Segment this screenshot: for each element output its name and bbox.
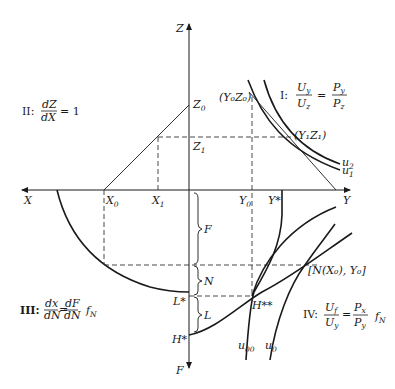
svg-text:Px: Px <box>353 301 366 315</box>
svg-text:Uz: Uz <box>297 97 310 111</box>
y0z0-label: (Y₀Z₀) <box>219 91 251 104</box>
h-star-star-label: H** <box>251 299 273 312</box>
quadrant-ii-equation: II: dZ dX = 1 <box>22 98 80 124</box>
x1-label: X1 <box>151 194 165 209</box>
production-curve-iii <box>57 190 189 292</box>
quadrant-i-equation: I: Uy Uz = Py Pz <box>280 81 347 111</box>
z0-label: Z0 <box>192 98 206 113</box>
svg-text:fN: fN <box>374 310 386 325</box>
svg-text:fN: fN <box>85 304 97 319</box>
svg-text:Uf: Uf <box>325 301 338 315</box>
svg-text:=: = <box>317 89 326 102</box>
brace-f <box>194 193 202 264</box>
svg-text:Uy: Uy <box>325 316 339 330</box>
quadrant-iv-equation: IV: Uf Uy = Px Py fN <box>303 301 386 330</box>
z1-label: Z1 <box>192 140 205 155</box>
y0-label: Y0 <box>239 194 251 209</box>
y1z1-label: (Y₁Z₁) <box>294 129 326 142</box>
svg-text:I:: I: <box>280 89 288 102</box>
l-star-label: L* <box>172 295 186 308</box>
u0-label: u0 <box>265 339 277 354</box>
brace-n-label: N <box>203 275 214 288</box>
svg-text:IV:: IV: <box>303 308 318 321</box>
svg-text:dN: dN <box>64 309 81 322</box>
n-x0-y0-label: [N(X₀), Y₀] <box>308 264 366 277</box>
transformation-line <box>104 105 189 190</box>
indifference-curve-u0 <box>270 224 335 360</box>
svg-text:Py: Py <box>332 81 345 95</box>
h-star-label: H* <box>171 333 188 346</box>
svg-text:dZ: dZ <box>42 98 57 111</box>
z-axis-label: Z <box>175 22 184 35</box>
brace-l-label: L <box>203 309 211 322</box>
brace-n <box>194 266 202 295</box>
svg-text:Uy: Uy <box>297 81 311 95</box>
x-axis-label: X <box>23 194 33 207</box>
svg-text:III:: III: <box>20 304 40 317</box>
u00-label: u00 <box>238 339 255 354</box>
svg-text:Py: Py <box>353 316 366 330</box>
y-star-curve-u00 <box>246 190 282 360</box>
x0-label: X0 <box>105 194 119 209</box>
svg-text:Pz: Pz <box>332 97 344 111</box>
y-axis-label: Y <box>343 194 352 207</box>
svg-text:II:: II: <box>22 105 34 118</box>
brace-l <box>194 297 202 332</box>
brace-f-label: F <box>203 223 212 236</box>
svg-text:=: = <box>342 308 351 321</box>
four-quadrant-diagram: Z X Y F Z0 Z1 X0 X1 II: dZ dX = 1 (Y₀Z₀)… <box>0 0 395 389</box>
svg-text:= 1: = 1 <box>60 105 80 118</box>
quadrant-iii-equation: III: dx dN = dF dN fN <box>20 297 97 322</box>
svg-text:dX: dX <box>41 111 57 124</box>
y-star-label: Y* <box>268 194 281 207</box>
f-axis-label: F <box>175 364 184 377</box>
